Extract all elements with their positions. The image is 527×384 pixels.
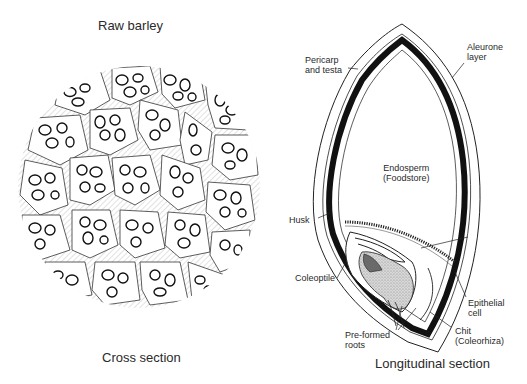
raw-barley-title: Raw barley — [98, 18, 163, 33]
label-husk: Husk — [289, 215, 310, 225]
label-coleoptile: Coleoptile — [295, 273, 335, 283]
label-preformed-roots: Pre-formed roots — [345, 330, 390, 350]
label-pericarp: Pericarp and testa — [305, 55, 342, 75]
label-aleurone: Aleurone layer — [467, 42, 503, 62]
label-chit: Chit (Coleorhiza) — [455, 326, 504, 346]
label-endosperm: Endosperm (Foodstore) — [383, 163, 430, 183]
cross-section-circle — [18, 66, 260, 308]
label-epithelial-cell: Epithelial cell — [468, 298, 505, 318]
cross-section-caption: Cross section — [102, 350, 181, 365]
barley-diagram — [0, 0, 527, 384]
longitudinal-section-caption: Longitudinal section — [375, 356, 490, 371]
